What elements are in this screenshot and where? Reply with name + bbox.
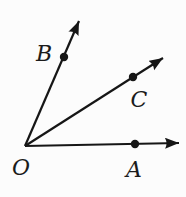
point-dot-B	[60, 53, 68, 61]
point-label-A: A	[124, 157, 142, 182]
point-label-B: B	[35, 41, 52, 66]
point-dot-C	[129, 73, 137, 81]
ray-OA	[25, 143, 179, 146]
point-label-O: O	[12, 155, 30, 180]
geometry-diagram: BCAO	[0, 0, 186, 197]
point-label-C: C	[131, 87, 148, 112]
diagram-canvas: BCAO	[0, 0, 186, 197]
point-dot-A	[131, 140, 139, 148]
